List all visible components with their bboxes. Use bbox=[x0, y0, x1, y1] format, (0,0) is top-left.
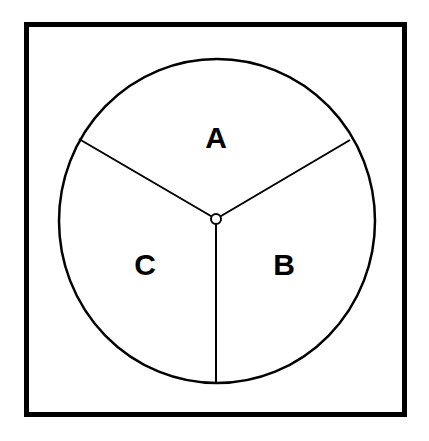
section-label-a: A bbox=[205, 121, 227, 154]
divider-line-left bbox=[79, 139, 216, 219]
section-label-b: B bbox=[273, 248, 295, 281]
pivot-icon bbox=[211, 214, 221, 224]
section-label-c: C bbox=[134, 248, 156, 281]
spinner-diagram: A B C bbox=[0, 0, 429, 441]
divider-line-right bbox=[216, 140, 350, 219]
